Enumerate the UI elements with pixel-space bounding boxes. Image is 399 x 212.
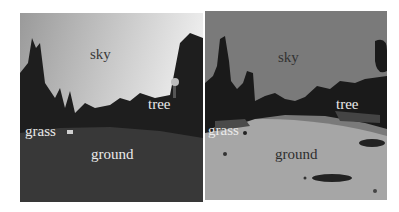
photo-image: [20, 13, 203, 202]
label-tree: tree: [148, 97, 170, 112]
seg-label-grass: grass: [208, 123, 239, 138]
seg-label-tree: tree: [336, 97, 358, 112]
label-ground: ground: [91, 147, 134, 162]
label-sky: sky: [90, 47, 111, 62]
label-grass: grass: [25, 124, 56, 139]
segmentation-panel: sky tree grass ground: [205, 11, 387, 200]
seg-label-ground: ground: [275, 147, 318, 162]
seg-label-sky: sky: [278, 50, 299, 65]
segmentation-image: [205, 11, 387, 200]
photo-panel: sky tree grass ground: [20, 13, 203, 202]
